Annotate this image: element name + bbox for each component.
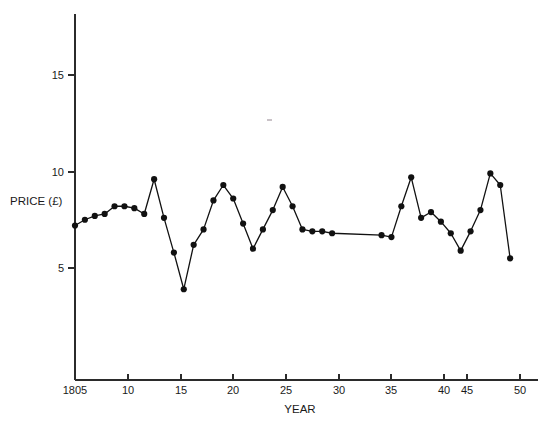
x-tick-label: 50: [514, 384, 526, 396]
data-point: [220, 182, 226, 188]
data-point: [72, 222, 78, 228]
data-point: [477, 207, 483, 213]
data-point: [141, 211, 147, 217]
data-point: [467, 228, 473, 234]
data-point: [121, 203, 127, 209]
data-point: [418, 215, 424, 221]
x-tick-label: 20: [227, 384, 239, 396]
data-point: [289, 203, 295, 209]
data-point: [270, 207, 276, 213]
data-point: [171, 249, 177, 255]
x-tick-label: 30: [333, 384, 345, 396]
data-point: [309, 228, 315, 234]
y-tick-label: 10: [52, 166, 64, 178]
x-tick-label: 25: [280, 384, 292, 396]
x-tick-label: 35: [385, 384, 397, 396]
data-point: [408, 174, 414, 180]
data-point: [280, 184, 286, 190]
y-axis-title: PRICE (£): [10, 195, 63, 207]
data-point: [507, 255, 513, 261]
data-point: [92, 213, 98, 219]
data-point: [240, 221, 246, 227]
x-tick-label: 10: [122, 384, 134, 396]
line-chart: 15 10 5 1805 10 15 20 25 30 35 40 45 50: [0, 0, 553, 424]
data-point: [200, 226, 206, 232]
data-point: [82, 217, 88, 223]
data-point: [378, 232, 384, 238]
data-point: [428, 209, 434, 215]
chart-canvas: 15 10 5 1805 10 15 20 25 30 35 40 45 50: [0, 0, 553, 424]
data-point: [487, 170, 493, 176]
data-point: [250, 246, 256, 252]
data-line: [75, 173, 510, 289]
x-tick-label: 15: [175, 384, 187, 396]
data-point: [131, 205, 137, 211]
data-point: [181, 286, 187, 292]
data-point: [230, 195, 236, 201]
data-point: [299, 226, 305, 232]
data-point: [161, 215, 167, 221]
data-point: [210, 197, 216, 203]
data-point: [458, 248, 464, 254]
x-axis-title: YEAR: [284, 403, 315, 415]
data-point: [398, 203, 404, 209]
y-tick-label: 5: [58, 262, 64, 274]
data-point: [260, 226, 266, 232]
x-axis-ticks: 1805 10 15 20 25 30 35 40 45 50: [63, 374, 526, 396]
data-point: [388, 234, 394, 240]
data-markers: [72, 170, 513, 292]
data-point: [438, 219, 444, 225]
data-point: [448, 230, 454, 236]
data-point: [102, 211, 108, 217]
data-point: [319, 228, 325, 234]
scan-speck: [267, 119, 272, 121]
data-point: [151, 176, 157, 182]
data-point: [329, 230, 335, 236]
y-axis-ticks: 15 10 5: [52, 69, 75, 274]
x-tick-label: 45: [461, 384, 473, 396]
x-tick-label: 1805: [63, 384, 87, 396]
y-tick-label: 15: [52, 69, 64, 81]
x-tick-label: 40: [438, 384, 450, 396]
data-point: [497, 182, 503, 188]
data-point: [191, 242, 197, 248]
data-point: [111, 203, 117, 209]
